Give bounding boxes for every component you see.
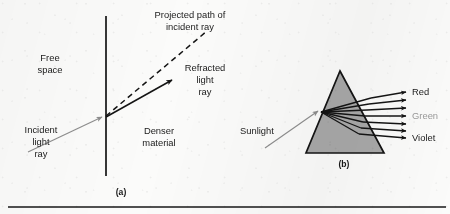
free-space-label-line2: space [37,64,62,75]
figure-page: Free space Incident light ray Projected … [0,0,450,214]
denser-material-label-line2: material [142,137,175,148]
exit-ray-2 [369,100,406,104]
red-label: Red [412,86,429,97]
free-space-label: Free [40,52,59,63]
panel-a-group: Free space Incident light ray Projected … [25,9,226,197]
panel-a-caption: (a) [116,187,127,197]
refracted-light-ray-arrow [106,80,172,117]
projected-path-dashed-line [106,31,207,116]
refracted-light-ray-label: Refracted [185,62,226,73]
exit-ray-5 [363,122,406,124]
incident-light-ray-label-line2: light [32,136,50,147]
panel-b-caption: (b) [339,159,350,169]
physics-refraction-dispersion-figure: Free space Incident light ray Projected … [0,0,450,214]
incident-light-ray-label: Incident [25,124,58,135]
sunlight-label: Sunlight [240,125,274,136]
exit-ray-red [371,92,406,98]
projected-path-label: Projected path of [155,9,226,20]
violet-label: Violet [412,132,436,143]
denser-material-label: Denser [144,125,174,136]
exit-ray-3 [367,108,406,110]
panel-b-group: Sunlight Red Green Violet (b) [240,71,438,169]
incident-light-ray-label-line3: ray [34,148,47,159]
refracted-light-ray-label-line3: ray [198,86,211,97]
projected-path-label-line2: incident ray [166,21,214,32]
green-label: Green [412,110,438,121]
prism-triangle [306,71,384,153]
refracted-light-ray-label-line2: light [196,74,214,85]
